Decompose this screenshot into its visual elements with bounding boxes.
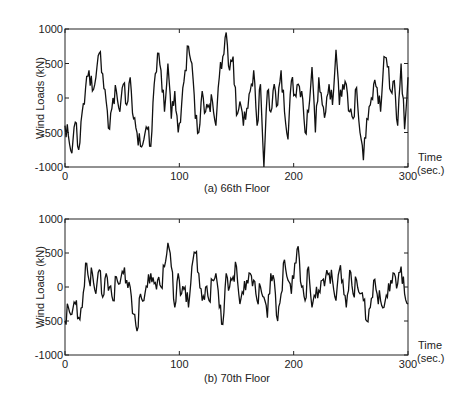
plot-frame	[65, 29, 408, 167]
y-axis-ticks: -1000-50005001000	[35, 23, 408, 173]
x-tick-label: 300	[399, 170, 417, 182]
x-tick-label: 0	[62, 358, 68, 370]
x-tick-label: 200	[284, 170, 302, 182]
y-tick-label: 1000	[39, 213, 63, 225]
x-tick-label: 100	[170, 358, 188, 370]
caption: (b) 70th Floor	[204, 372, 270, 384]
panel-66th-floor: -1000-50005001000 0100200300 Wind Loads …	[34, 23, 445, 194]
x-tick-label: 100	[170, 170, 188, 182]
plot-frame	[65, 219, 408, 355]
x-tick-label: 0	[62, 170, 68, 182]
y-tick-label: -1000	[35, 161, 63, 173]
caption: (a) 66th Floor	[204, 182, 270, 194]
wind-load-line	[65, 33, 408, 168]
panel-70th-floor: -1000-50005001000 0100200300 Wind Loads …	[34, 213, 445, 384]
y-tick-label: 500	[45, 247, 63, 259]
y-axis-label: Wind Loads (kN)	[34, 57, 46, 139]
x-axis-label-unit: (sec.)	[417, 164, 445, 176]
figure: -1000-50005001000 0100200300 Wind Loads …	[0, 0, 470, 400]
y-tick-label: -1000	[35, 349, 63, 361]
x-axis-label-time: Time	[418, 339, 442, 351]
x-tick-label: 200	[284, 358, 302, 370]
x-axis-label-unit: (sec.)	[417, 352, 445, 364]
wind-load-line	[65, 243, 408, 331]
y-tick-label: 0	[57, 92, 63, 104]
y-tick-label: 0	[57, 281, 63, 293]
y-tick-label: 500	[45, 58, 63, 70]
y-axis-label: Wind Loads (kN)	[34, 246, 46, 328]
x-axis-label-time: Time	[418, 151, 442, 163]
x-axis-ticks: 0100200300	[62, 219, 417, 370]
y-tick-label: 1000	[39, 23, 63, 35]
x-tick-label: 300	[399, 358, 417, 370]
